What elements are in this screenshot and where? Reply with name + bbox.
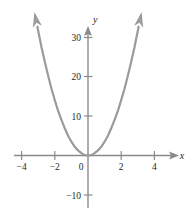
x-tick-labels: −4 −2 0 2 4	[17, 162, 157, 172]
x-tick-label-4: 4	[152, 162, 157, 172]
y-tick-label-30: 30	[72, 33, 82, 43]
graph-figure: −4 −2 0 2 4 30 20 10 −10 y x	[0, 0, 189, 214]
x-tick-label-2: 2	[119, 162, 124, 172]
x-tick-label--4: −4	[17, 162, 27, 172]
x-axis-label: x	[179, 150, 185, 161]
parabola-left-arrow-icon	[33, 12, 42, 28]
x-tick-label--2: −2	[50, 162, 60, 172]
parabola-right-arrow-icon	[134, 12, 143, 28]
y-tick-labels: 30 20 10 −10	[66, 33, 81, 201]
origin-label: 0	[79, 162, 84, 172]
y-tick-label-20: 20	[72, 72, 82, 82]
y-tick-label-10: 10	[72, 112, 82, 122]
parabola-plot: −4 −2 0 2 4 30 20 10 −10 y x	[0, 0, 189, 214]
y-axis-label: y	[92, 14, 98, 25]
y-axis	[84, 26, 93, 208]
y-tick-label--10: −10	[66, 191, 81, 201]
